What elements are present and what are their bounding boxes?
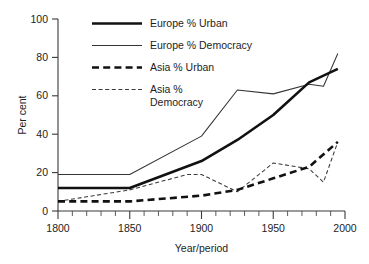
chart-page: 100 80 60 40 20 0 xyxy=(0,0,369,264)
legend-label-asia-urban: Asia % Urban xyxy=(150,61,214,73)
x-tick-label: 1800 xyxy=(46,222,70,234)
y-tick-label: 100 xyxy=(30,13,48,25)
x-axis-title: Year/period xyxy=(175,242,228,254)
y-tick-label: 60 xyxy=(36,89,48,101)
y-axis-title: Per cent xyxy=(16,95,28,134)
series-asia-urban xyxy=(58,142,338,202)
y-axis-ticks xyxy=(52,19,58,211)
y-axis-tick-labels: 100 80 60 40 20 0 xyxy=(30,13,48,217)
y-tick-label: 0 xyxy=(42,205,48,217)
x-tick-label: 1900 xyxy=(190,222,214,234)
y-tick-label: 20 xyxy=(36,166,48,178)
y-tick-label: 40 xyxy=(36,128,48,140)
x-tick-label: 1850 xyxy=(118,222,142,234)
line-chart: 100 80 60 40 20 0 xyxy=(0,0,369,264)
legend-label-asia-democracy-line2: Democracy xyxy=(150,96,204,108)
x-tick-label: 1950 xyxy=(262,222,286,234)
x-axis-tick-labels: 1800 1850 1900 1950 2000 xyxy=(46,222,357,234)
x-tick-label: 2000 xyxy=(333,222,357,234)
legend-label-europe-democracy: Europe % Democracy xyxy=(150,39,253,51)
legend-label-asia-democracy: Asia % xyxy=(150,83,183,95)
y-tick-label: 80 xyxy=(36,51,48,63)
chart-legend: Europe % Urban Europe % Democracy Asia %… xyxy=(92,17,253,107)
legend-label-europe-urban: Europe % Urban xyxy=(150,17,228,29)
